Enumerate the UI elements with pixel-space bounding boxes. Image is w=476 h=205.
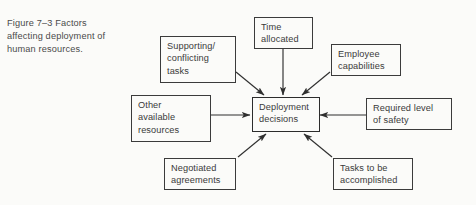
node-other-available-resources[interactable]: Other available resources (131, 95, 211, 142)
node-time-allocated[interactable]: Time allocated (254, 17, 313, 49)
connector-supporting-conflicting-tasks (236, 72, 264, 95)
connector-employee-capabilities (302, 72, 330, 95)
figure-canvas: Figure 7–3 Factors affecting deployment … (0, 0, 476, 205)
node-tasks-to-be-accomplished[interactable]: Tasks to be accomplished (333, 158, 413, 190)
connector-tasks-to-be-accomplished (304, 134, 332, 157)
node-supporting-conflicting-tasks[interactable]: Supporting/ conflicting tasks (160, 36, 236, 83)
node-deployment-decisions[interactable]: Deployment decisions (252, 97, 320, 132)
node-required-level-of-safety[interactable]: Required level of safety (366, 98, 452, 130)
connector-negotiated-agreements (238, 134, 266, 157)
node-negotiated-agreements[interactable]: Negotiated agreements (164, 158, 236, 190)
node-employee-capabilities[interactable]: Employee capabilities (331, 44, 401, 76)
